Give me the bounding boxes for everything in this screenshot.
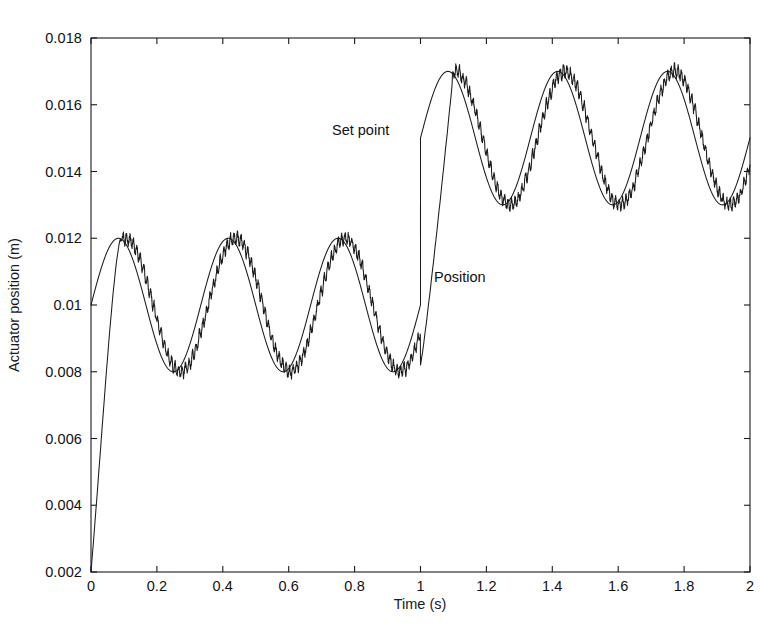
x-tick-label: 1.8 xyxy=(674,578,694,594)
y-axis-title: Actuator position (m) xyxy=(6,238,22,372)
x-tick-label: 1.4 xyxy=(542,578,562,594)
series-annotation-set-point: Set point xyxy=(332,122,389,138)
y-tick-label: 0.018 xyxy=(0,30,82,46)
x-tick-label: 1 xyxy=(416,578,424,594)
y-tick-label: 0.014 xyxy=(0,164,82,180)
x-tick-label: 1.6 xyxy=(608,578,628,594)
y-tick-label: 0.006 xyxy=(0,431,82,447)
plot-canvas xyxy=(0,0,781,641)
y-tick-label: 0.004 xyxy=(0,497,82,513)
y-tick-label: 0.016 xyxy=(0,97,82,113)
x-axis-title: Time (s) xyxy=(394,596,447,612)
figure-background xyxy=(0,0,781,641)
chart-figure: 0.0020.0040.0060.0080.010.0120.0140.0160… xyxy=(0,0,781,641)
x-tick-label: 0 xyxy=(87,578,95,594)
x-tick-label: 0.2 xyxy=(147,578,167,594)
y-tick-label: 0.002 xyxy=(0,564,82,580)
x-tick-label: 0.4 xyxy=(213,578,233,594)
x-tick-label: 2 xyxy=(746,578,754,594)
x-tick-label: 0.6 xyxy=(278,578,298,594)
x-tick-label: 0.8 xyxy=(344,578,364,594)
series-annotation-position: Position xyxy=(434,269,486,285)
x-tick-label: 1.2 xyxy=(476,578,496,594)
